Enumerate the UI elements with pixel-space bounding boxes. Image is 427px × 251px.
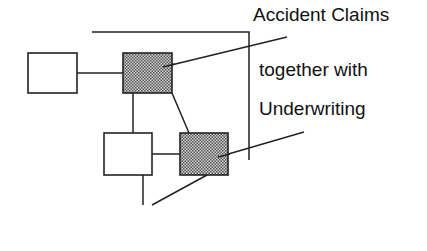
node-d	[180, 133, 228, 175]
edge-d-out	[152, 175, 207, 205]
label-underwriting: Underwriting	[259, 98, 366, 120]
label-together-with: together with	[259, 59, 368, 81]
node-b	[123, 53, 172, 93]
label-accident-claims: Accident Claims	[253, 4, 389, 26]
edge-b-d	[172, 93, 189, 133]
node-a	[28, 53, 77, 93]
pointer-d	[218, 132, 304, 157]
node-c	[104, 133, 152, 175]
network-diagram	[0, 0, 427, 251]
